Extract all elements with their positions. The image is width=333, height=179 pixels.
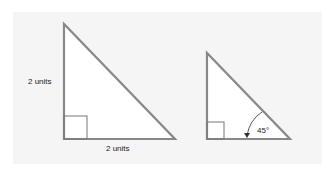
bottom-side-label: 2 units	[106, 144, 130, 153]
small-right-triangle	[207, 53, 290, 139]
left-side-label: 2 units	[28, 77, 52, 86]
triangles-diagram	[0, 0, 333, 179]
large-right-triangle	[64, 24, 175, 139]
angle-label: 45°	[257, 126, 269, 135]
